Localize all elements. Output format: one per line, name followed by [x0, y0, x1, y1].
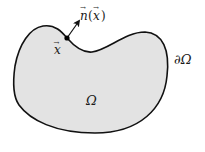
- normal-label-open-paren: (: [88, 9, 93, 23]
- region-label: Ω: [85, 93, 97, 108]
- boundary-label: ∂Ω: [174, 52, 192, 67]
- point-label-vector-mark: →: [54, 39, 60, 47]
- normal-vector-arrow: [67, 21, 79, 38]
- normal-label-close-paren: ): [101, 9, 106, 23]
- normal-label-n-vector-mark: →: [80, 4, 86, 12]
- normal-label-x-vector-mark: →: [93, 4, 99, 12]
- domain-diagram: x → n → ( x → ) ∂Ω Ω: [0, 0, 205, 152]
- boundary-point: [64, 35, 69, 40]
- region-omega: [14, 26, 168, 133]
